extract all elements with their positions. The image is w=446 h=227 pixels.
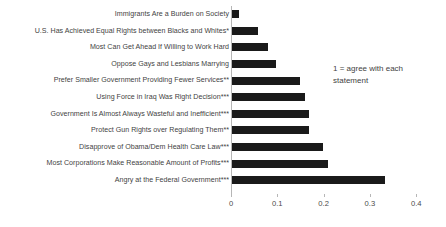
category-label: Oppose Gays and Lesbians Marrying	[111, 56, 229, 73]
bar	[232, 10, 239, 18]
bar-row: Immigrants Are a Burden on Society	[0, 6, 446, 23]
bar	[232, 93, 305, 101]
bar-rows: Immigrants Are a Burden on SocietyU.S. H…	[0, 6, 446, 189]
bar-track	[232, 89, 446, 106]
x-tick-label: 0.2	[318, 199, 329, 208]
bar	[232, 60, 276, 68]
category-label: U.S. Has Achieved Equal Rights between B…	[35, 23, 229, 40]
bar-row: Government Is Almost Always Wasteful and…	[0, 106, 446, 123]
x-tick-label: 0.4	[411, 199, 422, 208]
category-label: Immigrants Are a Burden on Society	[115, 6, 229, 23]
bar-track	[232, 122, 446, 139]
bar-track	[232, 155, 446, 172]
x-tick-mark	[416, 194, 417, 197]
x-axis: 00.10.20.30.4	[0, 194, 446, 218]
bar-row: Most Corporations Make Reasonable Amount…	[0, 155, 446, 172]
category-label: Government Is Almost Always Wasteful and…	[50, 106, 229, 123]
category-label: Angry at the Federal Government***	[115, 172, 229, 189]
bar	[232, 126, 309, 134]
bar-track	[232, 139, 446, 156]
x-tick-mark	[231, 194, 232, 197]
bar	[232, 176, 385, 184]
bar	[232, 143, 323, 151]
x-tick-mark	[324, 194, 325, 197]
x-tick-label: 0	[229, 199, 233, 208]
bar-row: Using Force in Iraq Was Right Decision**…	[0, 89, 446, 106]
bar-row: U.S. Has Achieved Equal Rights between B…	[0, 23, 446, 40]
bar-row: Most Can Get Ahead If Willing to Work Ha…	[0, 39, 446, 56]
x-tick-mark	[370, 194, 371, 197]
bar-row: Disapprove of Obama/Dem Health Care Law*…	[0, 139, 446, 156]
bar-track	[232, 23, 446, 40]
bar-row: Angry at the Federal Government***	[0, 172, 446, 189]
bar-chart: Immigrants Are a Burden on SocietyU.S. H…	[0, 0, 446, 227]
bar-row: Protect Gun Rights over Regulating Them*…	[0, 122, 446, 139]
x-tick-mark	[277, 194, 278, 197]
category-label: Using Force in Iraq Was Right Decision**…	[96, 89, 229, 106]
category-label: Most Corporations Make Reasonable Amount…	[47, 155, 229, 172]
category-label: Disapprove of Obama/Dem Health Care Law*…	[79, 139, 229, 156]
category-label: Prefer Smaller Government Providing Fewe…	[54, 72, 229, 89]
bar	[232, 77, 300, 85]
bar-track	[232, 6, 446, 23]
x-tick-label: 0.1	[272, 199, 283, 208]
bar-track	[232, 106, 446, 123]
annotation-line-2: statement	[333, 75, 443, 87]
category-label: Protect Gun Rights over Regulating Them*…	[91, 122, 229, 139]
plot-area: Immigrants Are a Burden on SocietyU.S. H…	[0, 0, 446, 227]
annotation-line-1: 1 = agree with each	[333, 63, 443, 75]
bar-track	[232, 172, 446, 189]
chart-annotation: 1 = agree with each statement	[333, 63, 443, 86]
bar-track	[232, 39, 446, 56]
bar	[232, 160, 328, 168]
bar	[232, 27, 258, 35]
x-tick-label: 0.3	[365, 199, 376, 208]
bar	[232, 110, 309, 118]
bar	[232, 43, 268, 51]
category-label: Most Can Get Ahead If Willing to Work Ha…	[90, 39, 229, 56]
